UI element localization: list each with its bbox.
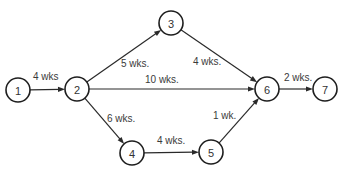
node-6: 6: [255, 77, 279, 101]
edge-line: [30, 89, 60, 90]
node-label: 5: [208, 147, 214, 159]
edge-line: [144, 152, 194, 153]
node-label: 2: [74, 84, 80, 96]
arrowhead-icon: [248, 86, 255, 91]
edge-label-5-6: 1 wk.: [213, 110, 236, 121]
network-diagram: 4 wks5 wks.10 wks.6 wks.4 wks.4 wks.1 wk…: [0, 0, 343, 172]
edge-label-6-7: 2 wks.: [284, 72, 312, 83]
node-2: 2: [65, 77, 89, 101]
node-label: 3: [168, 18, 174, 30]
node-label: 6: [264, 84, 270, 96]
edge-1-2: [30, 87, 65, 92]
arrowhead-icon: [58, 87, 65, 92]
edge-label-2-6: 10 wks.: [145, 74, 179, 85]
node-label: 7: [322, 84, 328, 96]
arrowhead-icon: [250, 76, 257, 82]
edge-2-6: [89, 86, 255, 91]
edge-line: [181, 30, 253, 80]
edge-label-2-4: 6 wks.: [107, 113, 135, 124]
node-7: 7: [313, 77, 337, 101]
edge-6-7: [279, 86, 313, 91]
edge-label-3-6: 4 wks.: [193, 56, 221, 67]
node-label: 4: [129, 148, 135, 160]
node-3: 3: [159, 11, 183, 35]
edge-label-4-5: 4 wks.: [157, 135, 185, 146]
edge-4-5: [144, 150, 199, 155]
edge-line: [219, 102, 256, 143]
arrowhead-icon: [306, 86, 313, 91]
arrowhead-icon: [154, 30, 161, 36]
node-1: 1: [6, 78, 30, 102]
node-5: 5: [199, 140, 223, 164]
node-label: 1: [15, 85, 21, 97]
edge-label-2-3: 5 wks.: [121, 58, 149, 69]
arrowhead-icon: [192, 150, 199, 155]
edge-label-1-2: 4 wks: [33, 71, 59, 82]
node-4: 4: [120, 141, 144, 165]
